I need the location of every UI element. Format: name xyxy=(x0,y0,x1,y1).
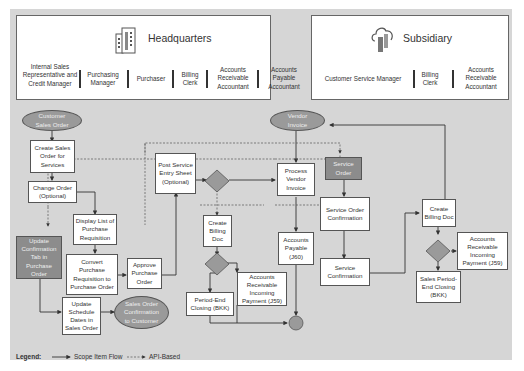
service-order-confirmation-step[interactable]: Service Order Confirmation xyxy=(320,197,370,231)
create-sales-order-step[interactable]: Create Sales Order for Services xyxy=(30,140,75,173)
accounts-payable-step[interactable]: Accounts Payable (J60) xyxy=(278,232,314,265)
ar-incoming-payment-hq-step[interactable]: Accounts Receivable Incoming Payment (J5… xyxy=(237,272,287,306)
convert-pr-to-po-step[interactable]: Convert Purchase Requisition to Purchase… xyxy=(66,254,118,295)
update-schedule-dates-step[interactable]: Update Schedule Dates in Sales Order xyxy=(62,297,101,335)
service-confirmation-step[interactable]: Service Confirmation xyxy=(320,258,370,286)
legend-label: Legend: xyxy=(16,353,41,360)
update-confirmation-tab-step[interactable]: Update Confirmation Tab in Purchase Orde… xyxy=(16,236,62,279)
post-service-entry-sheet-step[interactable]: Post Service Entry Sheet (Optional) xyxy=(155,153,196,194)
service-order-step[interactable]: Service Order xyxy=(325,157,362,180)
process-vendor-invoice-step[interactable]: Process Vendor Invoice xyxy=(277,163,315,196)
sales-period-end-closing-step[interactable]: Sales Period-End Closing (BKK) xyxy=(416,271,461,303)
end-event xyxy=(289,316,303,330)
display-list-pr-step[interactable]: Display List of Purchase Requisition xyxy=(73,214,117,245)
decision-diamond xyxy=(205,253,229,275)
legend-scope-item-flow: Scope Item Flow xyxy=(74,353,122,360)
ar-incoming-payment-sub-step[interactable]: Accounts Receivable Incoming Payment (J5… xyxy=(457,232,508,270)
change-order-step[interactable]: Change Order (Optional) xyxy=(28,181,77,203)
period-end-closing-step[interactable]: Period-End Closing (BKK) xyxy=(186,292,234,316)
decision-diamond xyxy=(426,240,450,262)
create-billing-doc-sub-step[interactable]: Create Billing Doc xyxy=(422,199,456,227)
customer-sales-order-event[interactable]: Customer Sales Order xyxy=(22,110,82,131)
so-confirmation-customer-event[interactable]: Sales Order Confirmation to Customer xyxy=(114,296,169,329)
create-billing-doc-hq-step[interactable]: Create Billing Doc xyxy=(203,215,232,247)
vendor-invoice-event[interactable]: Vendor Invoice xyxy=(270,110,325,131)
approve-po-step[interactable]: Approve Purchase Order xyxy=(127,258,162,289)
decision-diamond xyxy=(205,170,229,192)
legend-api-based: API-Based xyxy=(149,353,180,360)
